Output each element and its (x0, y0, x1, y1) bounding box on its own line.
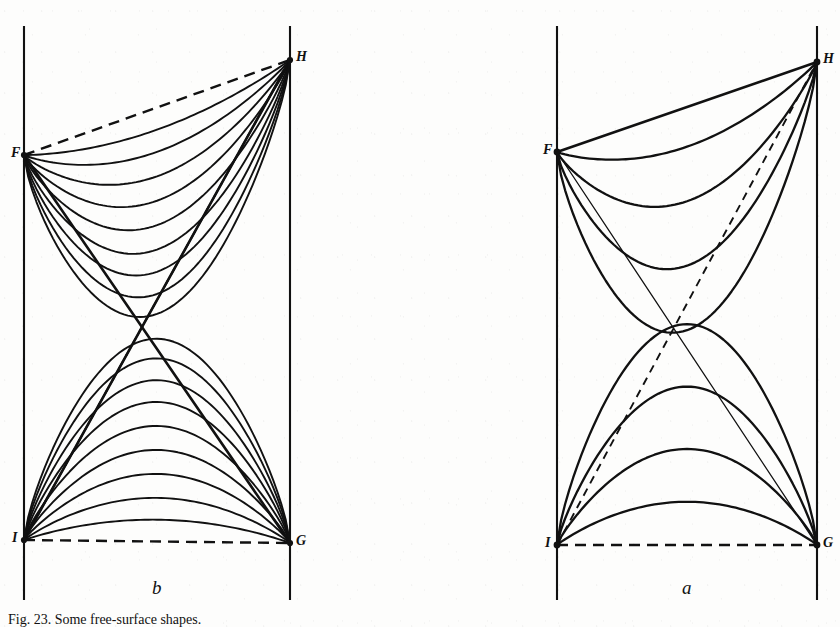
panel-b-label-F: F (11, 146, 20, 160)
panel-a-lower-curve-4 (557, 324, 817, 545)
panel-b-node-H (287, 57, 293, 63)
panel-b-chord-IG (24, 540, 290, 543)
panel-b-chord-FG (24, 155, 290, 543)
panel-b-upper-curve-8 (24, 60, 290, 297)
panel-b-label-G: G (296, 534, 306, 548)
panel-b-chord-IH (24, 60, 290, 540)
panel-b-node-I (21, 537, 27, 543)
panel-a-label-H: H (823, 52, 834, 66)
panel-a-lower-curve-family (557, 324, 817, 545)
panel-b-node-F (21, 152, 27, 158)
panel-b-node-G (287, 540, 293, 546)
panel-a-upper-curve-3 (557, 62, 817, 269)
panel-b-lower-curve-6 (24, 402, 290, 543)
panel-a-upper-curve-family (557, 62, 817, 333)
figure-root: F H I G F H I G b a Fig. 23. Some free-s… (0, 0, 840, 627)
panel-a-lower-curve-2 (557, 449, 817, 545)
panel-a-label-F: F (543, 143, 552, 157)
panel-b-upper-curve-2 (24, 60, 290, 165)
panel-a-node-I (554, 542, 561, 549)
panel-b (21, 26, 293, 600)
panel-b-label-H: H (296, 50, 307, 64)
panel-a-node-G (814, 542, 821, 549)
panel-a-label-I: I (545, 536, 550, 550)
panel-a-lower-curve-3 (557, 387, 817, 545)
panel-b-lower-curve-family (24, 339, 290, 543)
panel-b-upper-curve-7 (24, 60, 290, 276)
panel-b-letter: b (152, 578, 162, 597)
figure-caption: Fig. 23. Some free-surface shapes. (8, 612, 308, 627)
panel-a (554, 26, 821, 600)
figure-canvas (0, 0, 840, 627)
panel-a-chord-FH (557, 62, 817, 152)
panel-b-chord-FH (24, 60, 290, 155)
panel-a-node-H (814, 59, 821, 66)
panel-a-upper-curve-4 (557, 62, 817, 333)
panel-a-chord-FG (557, 152, 817, 545)
panel-a-chord-IH (557, 62, 817, 545)
panel-a-node-F (554, 149, 561, 156)
panel-a-label-G: G (823, 536, 833, 550)
panel-b-label-I: I (12, 531, 17, 545)
panel-a-lower-curve-1 (557, 502, 817, 545)
panel-b-upper-curve-family (24, 60, 290, 317)
panel-a-letter: a (682, 578, 692, 597)
